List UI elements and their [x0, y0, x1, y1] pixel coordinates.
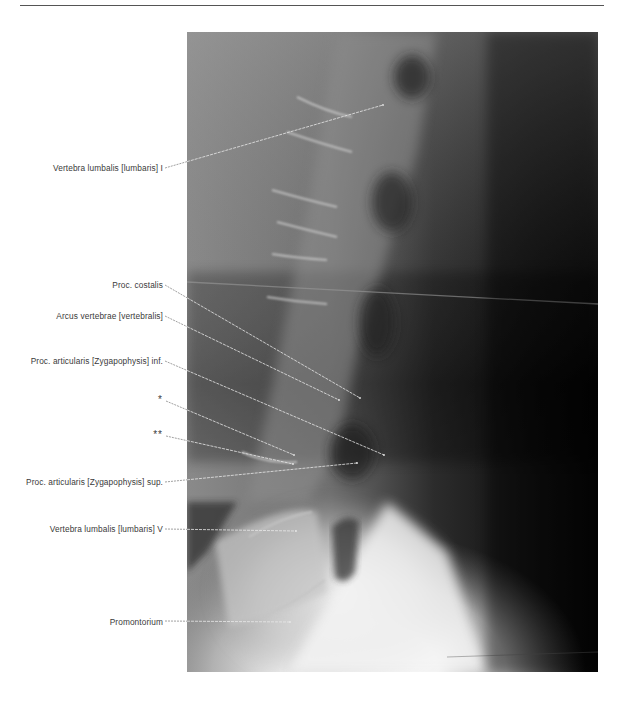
- leader-line-costalis: [165, 285, 187, 298]
- label-arcus-vertebrae: Arcus vertebrae [vertebralis]: [56, 311, 163, 321]
- label-proc-articularis-sup: Proc. articularis [Zygapophysis] sup.: [26, 477, 163, 487]
- label-asterisk-single: *: [158, 395, 163, 405]
- label-proc-articularis-inf: Proc. articularis [Zygapophysis] inf.: [31, 356, 163, 366]
- xray-image: [187, 32, 598, 672]
- leader-line-star2: [166, 436, 187, 441]
- label-promontorium: Promontorium: [110, 617, 163, 627]
- leader-line-star1: [166, 401, 187, 410]
- page-header-rule: [20, 5, 604, 6]
- label-vertebra-lumbalis-v: Vertebra lumbalis [lumbaris] V: [50, 524, 163, 534]
- label-proc-costalis: Proc. costalis: [112, 280, 163, 290]
- leader-line-arcus: [165, 316, 187, 327]
- lumbar-spine-radiograph: [187, 32, 598, 672]
- leader-line-art-inf: [165, 361, 187, 370]
- label-vertebra-lumbalis-i: Vertebra lumbalis [lumbaris] I: [53, 163, 163, 173]
- leader-line-l1: [165, 162, 187, 168]
- leader-line-art-sup: [165, 480, 187, 482]
- label-asterisk-double: **: [153, 430, 163, 440]
